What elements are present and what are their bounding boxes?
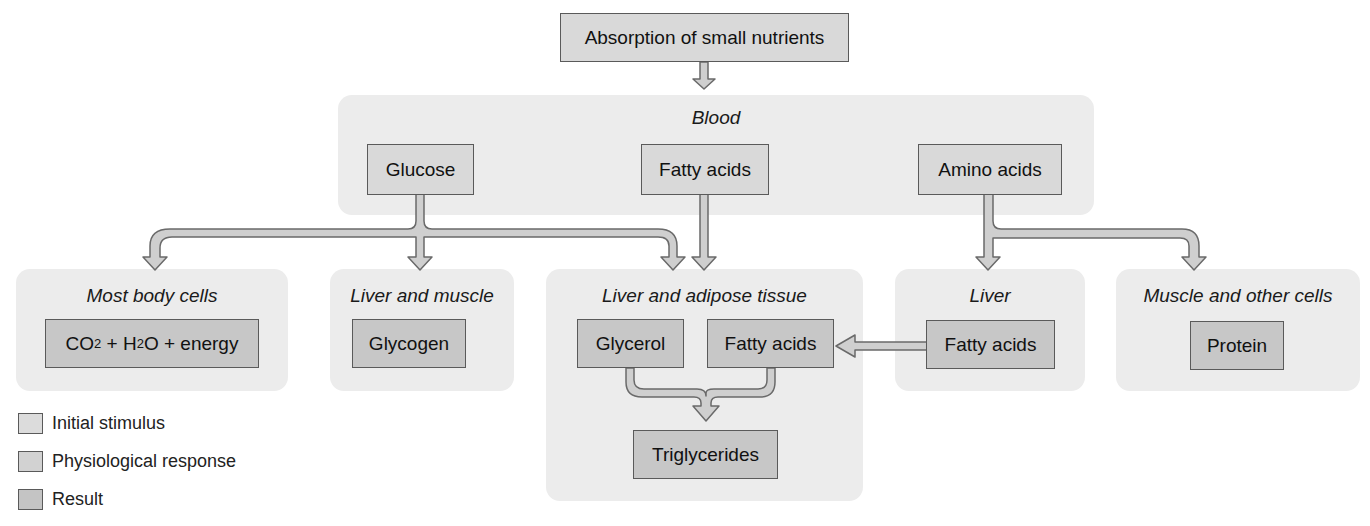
co2-h2o-energy-box: CO2 + H2O + energy — [45, 319, 259, 368]
muscle-other-title: Muscle and other cells — [1116, 285, 1360, 307]
blood-fatty-acids-box: Fatty acids — [641, 144, 769, 195]
adipose-fatty-acids-box: Fatty acids — [707, 319, 834, 368]
legend-swatch-physiological — [18, 451, 43, 472]
legend-item-physiological-response: Physiological response — [18, 442, 236, 480]
legend-label: Physiological response — [52, 451, 236, 472]
triglycerides-box: Triglycerides — [633, 430, 778, 479]
liver-and-muscle-title: Liver and muscle — [330, 285, 514, 307]
co2-text: CO — [66, 333, 95, 355]
absorption-box: Absorption of small nutrients — [560, 13, 849, 62]
liver-fatty-acids-box: Fatty acids — [926, 320, 1055, 369]
legend-swatch-result — [18, 489, 43, 510]
legend-item-initial-stimulus: Initial stimulus — [18, 404, 236, 442]
legend-swatch-initial — [18, 413, 43, 434]
arrow-absorption-to-blood — [693, 62, 715, 89]
o-energy-text: O + energy — [144, 333, 239, 355]
glycogen-box: Glycogen — [352, 319, 466, 368]
legend: Initial stimulus Physiological response … — [18, 404, 236, 518]
amino-acids-box: Amino acids — [918, 144, 1062, 195]
blood-title: Blood — [338, 107, 1094, 129]
most-body-cells-title: Most body cells — [16, 285, 288, 307]
legend-label: Result — [52, 489, 103, 510]
glycerol-box: Glycerol — [577, 319, 684, 368]
liver-title: Liver — [895, 285, 1085, 307]
legend-item-result: Result — [18, 480, 236, 518]
protein-box: Protein — [1190, 321, 1284, 370]
co2-subscript: 2 — [94, 336, 101, 351]
plus-h-text: + H — [101, 333, 136, 355]
h2o-subscript: 2 — [137, 336, 144, 351]
glucose-box: Glucose — [367, 144, 474, 195]
liver-and-adipose-title: Liver and adipose tissue — [546, 285, 863, 307]
legend-label: Initial stimulus — [52, 413, 165, 434]
